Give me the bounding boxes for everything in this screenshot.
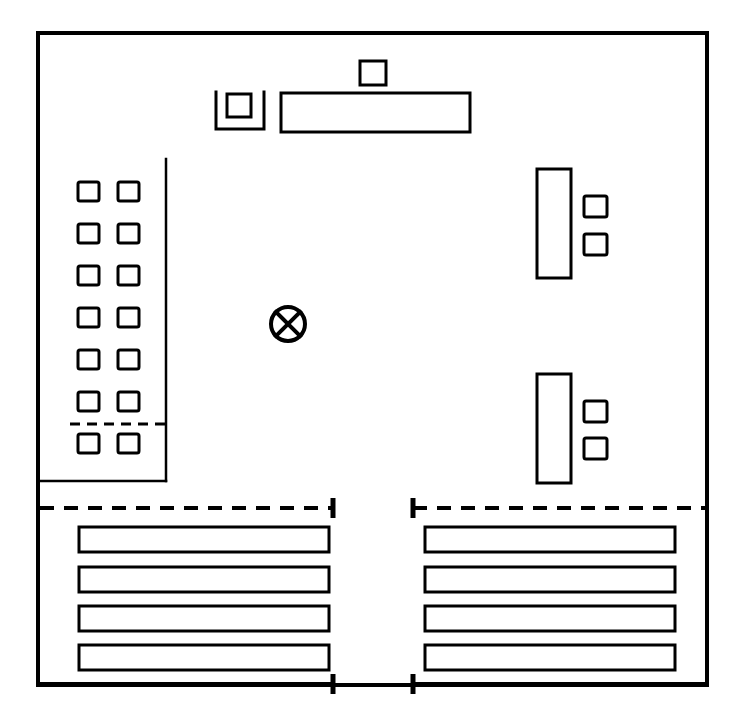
left-cell-array-module bbox=[38, 159, 166, 481]
upper-right-equipment-group-small-square-b[interactable] bbox=[584, 234, 607, 255]
lower-right-equipment-group-small-square-b[interactable] bbox=[584, 438, 607, 459]
upper-right-equipment-group-vertical-tall-rect[interactable] bbox=[537, 169, 571, 278]
bracket-inner-square bbox=[227, 94, 251, 117]
grid-cell-r7-c2[interactable] bbox=[118, 434, 139, 453]
bar-stack-left-bar-2[interactable] bbox=[79, 567, 329, 592]
bottom-right-bar-stack bbox=[425, 527, 675, 670]
grid-cell-r7-c1[interactable] bbox=[78, 434, 99, 453]
grid-cell-r6-c1[interactable] bbox=[78, 392, 99, 411]
grid-cell-r5-c1[interactable] bbox=[78, 350, 99, 369]
grid-cell-r4-c1[interactable] bbox=[78, 308, 99, 327]
top-equipment-group bbox=[216, 61, 470, 132]
upper-right-equipment-group bbox=[537, 169, 607, 278]
upper-dashed-dimension-guides bbox=[40, 498, 706, 518]
horizontal-long-bar-top bbox=[281, 93, 470, 132]
small-square-top bbox=[360, 61, 386, 85]
bar-stack-right-bar-3[interactable] bbox=[425, 606, 675, 631]
bar-stack-right-bar-2[interactable] bbox=[425, 567, 675, 592]
layout-diagram bbox=[0, 0, 742, 715]
bar-stack-left-bar-4[interactable] bbox=[79, 645, 329, 670]
upper-right-equipment-group-small-square-a[interactable] bbox=[584, 196, 607, 217]
lower-right-equipment-group bbox=[537, 374, 607, 483]
grid-cell-r2-c2[interactable] bbox=[118, 224, 139, 243]
grid-cell-r1-c1[interactable] bbox=[78, 182, 99, 201]
right-equipment-groups bbox=[537, 169, 607, 483]
bottom-left-bar-stack bbox=[79, 527, 329, 670]
grid-cell-r4-c2[interactable] bbox=[118, 308, 139, 327]
cell-grid bbox=[78, 182, 139, 453]
bar-stack-left-bar-1[interactable] bbox=[79, 527, 329, 552]
grid-cell-r5-c2[interactable] bbox=[118, 350, 139, 369]
grid-cell-r3-c1[interactable] bbox=[78, 266, 99, 285]
bar-stack-right-bar-1[interactable] bbox=[425, 527, 675, 552]
center-reference-mark bbox=[271, 307, 305, 341]
grid-cell-r1-c2[interactable] bbox=[118, 182, 139, 201]
grid-cell-r3-c2[interactable] bbox=[118, 266, 139, 285]
u-bracket-icon bbox=[216, 92, 264, 129]
lower-right-equipment-group-small-square-a[interactable] bbox=[584, 401, 607, 422]
bar-stack-left-bar-3[interactable] bbox=[79, 606, 329, 631]
bar-stack-right-bar-4[interactable] bbox=[425, 645, 675, 670]
lower-right-equipment-group-vertical-tall-rect[interactable] bbox=[537, 374, 571, 483]
grid-cell-r2-c1[interactable] bbox=[78, 224, 99, 243]
grid-cell-r6-c2[interactable] bbox=[118, 392, 139, 411]
technical-drawing-canvas bbox=[0, 0, 742, 715]
bottom-bar-groups bbox=[79, 527, 675, 670]
